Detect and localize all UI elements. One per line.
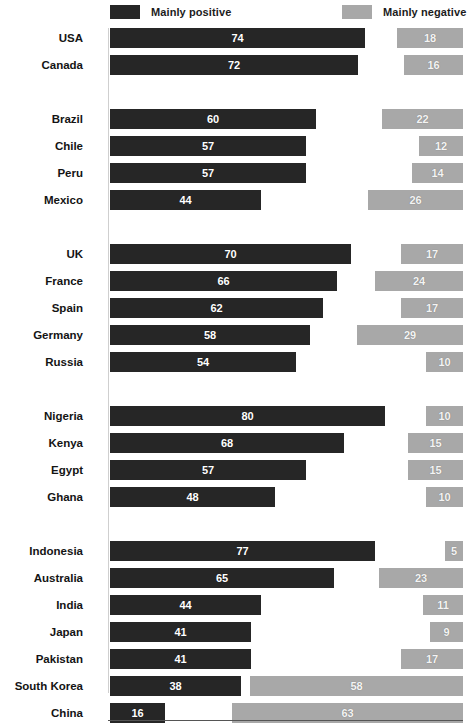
bar-negative: 17 [401,244,463,264]
bar-negative: 15 [408,460,463,480]
bar-value-negative: 22 [382,113,463,125]
bar-row: Spain6217 [0,298,468,318]
bar-row: Ghana4810 [0,487,468,507]
bar-positive: 72 [110,55,358,75]
legend-label-positive: Mainly positive [151,6,231,18]
bar-negative: 16 [404,55,463,75]
bar-value-positive: 38 [110,680,241,692]
bar-row: Germany5829 [0,325,468,345]
chart-container: Mainly positive Mainly negative USA7418C… [0,0,468,727]
bar-value-positive: 60 [110,113,316,125]
row-label: Kenya [48,437,83,449]
chart-baseline [108,720,463,721]
bar-positive: 38 [110,676,241,696]
bar-value-positive: 66 [110,275,337,287]
bar-value-negative: 24 [375,275,463,287]
bar-negative: 24 [375,271,463,291]
bar-positive: 77 [110,541,375,561]
row-label: Chile [55,140,83,152]
row-label: Russia [45,356,83,368]
bar-positive: 54 [110,352,296,372]
bar-negative: 29 [357,325,463,345]
bar-row: France6624 [0,271,468,291]
bar-value-positive: 65 [110,572,334,584]
bar-value-negative: 17 [401,248,463,260]
bar-value-negative: 16 [404,59,463,71]
bar-value-negative: 12 [419,140,463,152]
bar-positive: 58 [110,325,310,345]
bar-positive: 48 [110,487,275,507]
bar-negative: 23 [379,568,463,588]
row-label: USA [59,32,83,44]
bar-negative: 22 [382,109,463,129]
bar-row: India4411 [0,595,468,615]
bar-positive: 57 [110,136,306,156]
bar-value-negative: 5 [445,545,463,557]
legend-item-mainly-negative: Mainly negative [342,5,466,19]
bar-value-positive: 44 [110,599,261,611]
bar-row: Egypt5715 [0,460,468,480]
bar-row: Australia6523 [0,568,468,588]
bar-row: Nigeria8010 [0,406,468,426]
bar-value-negative: 14 [412,167,463,179]
bar-value-positive: 44 [110,194,261,206]
bar-row: Russia5410 [0,352,468,372]
bar-value-negative: 9 [430,626,463,638]
bar-value-negative: 10 [426,356,463,368]
bar-value-negative: 17 [401,653,463,665]
chart-legend: Mainly positive Mainly negative [0,0,468,26]
row-label: Germany [33,329,83,341]
row-label: South Korea [15,680,83,692]
row-label: China [51,707,83,719]
row-label: Mexico [44,194,83,206]
legend-label-negative: Mainly negative [383,6,466,18]
row-label: Nigeria [44,410,83,422]
bar-row: Japan419 [0,622,468,642]
row-label: Japan [50,626,83,638]
bar-value-positive: 57 [110,464,306,476]
bar-value-negative: 23 [379,572,463,584]
row-label: Brazil [52,113,83,125]
bar-positive: 80 [110,406,385,426]
bar-negative: 9 [430,622,463,642]
bar-positive: 65 [110,568,334,588]
bar-value-negative: 26 [368,194,463,206]
bar-negative: 17 [401,298,463,318]
bar-positive: 68 [110,433,344,453]
bar-value-positive: 74 [110,32,365,44]
bar-value-negative: 18 [397,32,463,44]
bar-row: Pakistan4117 [0,649,468,669]
row-label: Peru [57,167,83,179]
bar-row: Indonesia775 [0,541,468,561]
bar-negative: 18 [397,28,463,48]
row-label: Egypt [51,464,83,476]
bar-value-positive: 70 [110,248,351,260]
bar-value-positive: 72 [110,59,358,71]
bar-value-positive: 48 [110,491,275,503]
bar-value-negative: 15 [408,464,463,476]
bar-value-positive: 41 [110,626,251,638]
bar-value-negative: 15 [408,437,463,449]
bar-value-positive: 57 [110,140,306,152]
bar-value-positive: 77 [110,545,375,557]
bar-row: Peru5714 [0,163,468,183]
bar-row: South Korea3858 [0,676,468,696]
bar-value-positive: 80 [110,410,385,422]
bar-value-negative: 11 [423,599,463,611]
bar-row: Canada7216 [0,55,468,75]
bar-negative: 26 [368,190,463,210]
bar-negative: 11 [423,595,463,615]
bar-negative: 15 [408,433,463,453]
bar-value-negative: 10 [426,491,463,503]
bar-row: Chile5712 [0,136,468,156]
bar-row: Mexico4426 [0,190,468,210]
row-label: Ghana [47,491,83,503]
bar-value-positive: 58 [110,329,310,341]
row-label: Indonesia [29,545,83,557]
bar-value-positive: 62 [110,302,323,314]
bar-negative: 5 [445,541,463,561]
row-label: UK [66,248,83,260]
bar-positive: 66 [110,271,337,291]
bar-positive: 44 [110,595,261,615]
row-label: France [45,275,83,287]
